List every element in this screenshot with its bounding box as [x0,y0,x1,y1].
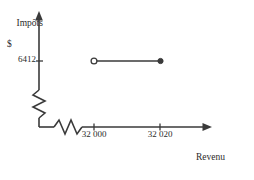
y-axis-break-zigzag-icon [33,90,45,118]
data-series-impots [91,58,163,64]
x-tick-label-32020: 32 020 [140,130,180,140]
y-tick-label-6412: 6412 [8,55,36,65]
x-axis [39,120,212,134]
x-axis-title: Revenu imposable ($) [196,131,235,180]
segment-start-open-circle-marker [91,58,97,64]
segment-end-filled-circle-marker [158,58,163,63]
y-axis-title-text: Impôts [17,18,43,28]
y-axis-unit-text: $ [7,39,43,49]
x-tick-label-32000: 32 000 [74,130,114,140]
axis-ticks [36,61,160,131]
x-axis-title-line1: Revenu [196,152,235,162]
tax-step-function-chart: Impôts $ 6412 32 000 32 020 Revenu impos… [0,0,254,180]
x-axis-arrowhead-icon [203,123,213,131]
